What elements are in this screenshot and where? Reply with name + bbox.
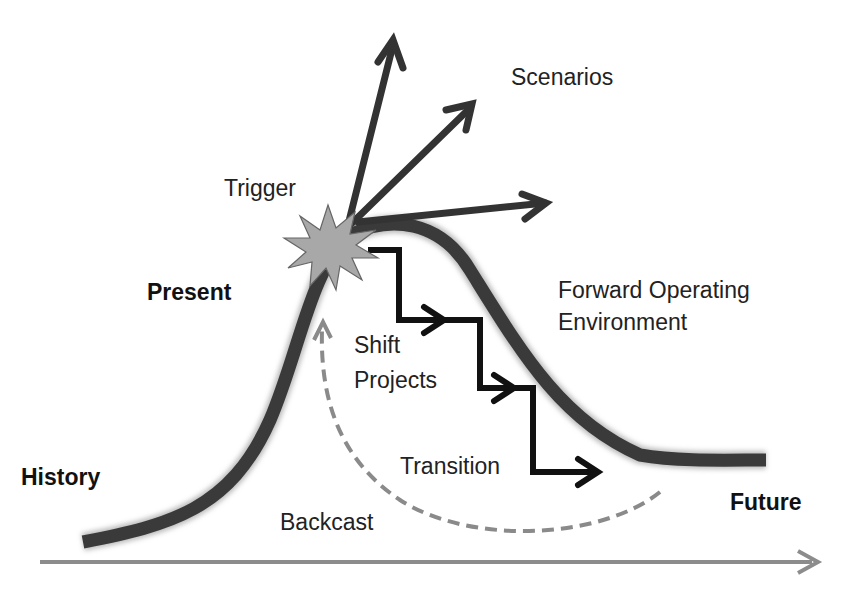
projects-label: Projects bbox=[354, 366, 437, 395]
backcast-label: Backcast bbox=[280, 508, 373, 537]
transition-label: Transition bbox=[400, 452, 500, 481]
environment-label: Environment bbox=[558, 308, 687, 337]
shift-label: Shift bbox=[354, 331, 400, 360]
scenarios-label: Scenarios bbox=[511, 63, 613, 92]
history-label: History bbox=[21, 463, 100, 492]
time-axis-arrow bbox=[40, 551, 818, 573]
future-label: Future bbox=[730, 488, 802, 517]
trigger-starburst-icon bbox=[284, 205, 378, 290]
forward-operating-label: Forward Operating bbox=[558, 276, 750, 305]
present-label: Present bbox=[147, 278, 231, 307]
foresight-diagram: Scenarios Trigger Present Forward Operat… bbox=[0, 0, 867, 606]
trigger-label: Trigger bbox=[224, 174, 296, 203]
